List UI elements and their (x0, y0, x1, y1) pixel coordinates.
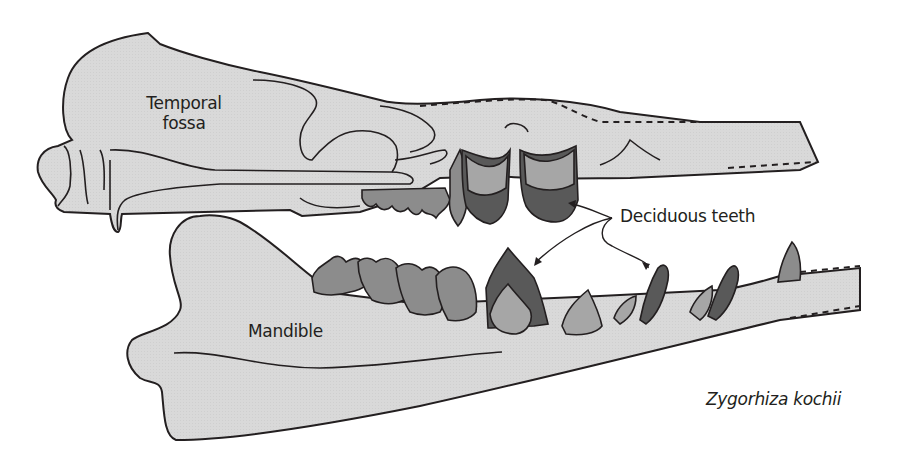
label-temporal-fossa-line1: Temporal (134, 93, 234, 113)
skull-diagram (0, 0, 903, 454)
label-deciduous-teeth: Deciduous teeth (620, 206, 755, 226)
label-temporal-fossa-line2: fossa (134, 113, 234, 133)
label-temporal-fossa: Temporal fossa (134, 93, 234, 133)
label-mandible: Mandible (248, 321, 323, 341)
species-name: Zygorhiza kochii (706, 389, 841, 409)
